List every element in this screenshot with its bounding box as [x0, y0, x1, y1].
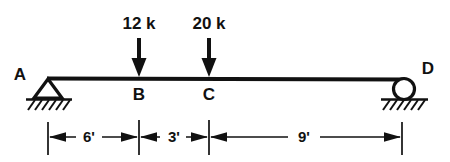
point-label-b: B [133, 85, 145, 104]
point-label-d: D [422, 59, 434, 78]
dimension-3ft: 3' [140, 128, 208, 145]
point-label-a: A [14, 65, 26, 84]
beam-diagram-canvas: A D 12 k B [0, 0, 450, 162]
support-a-pin: A [14, 65, 72, 110]
dimension-label-9ft: 9' [298, 128, 310, 145]
dimension-9ft: 9' [210, 128, 401, 145]
triangle-hatch-icon [26, 79, 72, 110]
hatch-lines-d [383, 100, 425, 110]
load-label-c: 20 k [192, 14, 226, 33]
load-label-b: 12 k [122, 14, 156, 33]
hatch-lines-a [28, 100, 70, 110]
load-arrow-c: 20 k [192, 14, 226, 77]
point-label-c: C [203, 85, 215, 104]
dimension-6ft: 6' [49, 128, 138, 145]
dimension-label-3ft: 3' [168, 128, 180, 145]
support-d-roller: D [381, 59, 434, 110]
dimension-label-6ft: 6' [83, 128, 95, 145]
load-arrow-b: 12 k [122, 14, 156, 77]
circle-roller-hatch-icon [381, 79, 428, 111]
beam-member [47, 79, 405, 80]
